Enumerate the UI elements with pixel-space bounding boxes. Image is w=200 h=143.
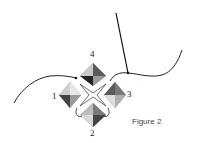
beadwork-diagram (0, 0, 200, 143)
needle (116, 13, 129, 74)
bead-label-4: 4 (90, 50, 95, 59)
right-thread (110, 50, 182, 81)
center-cross (80, 84, 106, 106)
bead-label-3: 3 (127, 90, 132, 99)
thread-knot (75, 77, 77, 79)
bead-2 (80, 103, 106, 127)
bead-label-1: 1 (52, 92, 57, 101)
bead-1 (59, 82, 81, 108)
bead-4 (80, 63, 106, 86)
bead-3 (104, 82, 126, 108)
figure-caption: Figure 2 (132, 118, 161, 126)
bead-label-2: 2 (90, 129, 95, 138)
